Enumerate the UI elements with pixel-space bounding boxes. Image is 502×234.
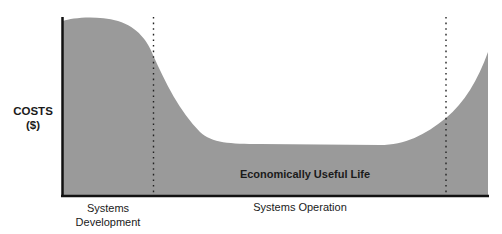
phase-label-development: Systems Development — [62, 201, 154, 229]
cost-curve-diagram — [0, 0, 502, 234]
phase-label-development-line1: Systems — [62, 201, 154, 215]
y-axis-label: COSTS ($) — [8, 104, 58, 132]
y-axis-label-line2: ($) — [8, 118, 58, 132]
useful-life-annotation: Economically Useful Life — [205, 168, 405, 180]
y-axis-label-line1: COSTS — [8, 104, 58, 118]
phase-label-operation: Systems Operation — [220, 201, 380, 213]
phase-label-development-line2: Development — [62, 215, 154, 229]
